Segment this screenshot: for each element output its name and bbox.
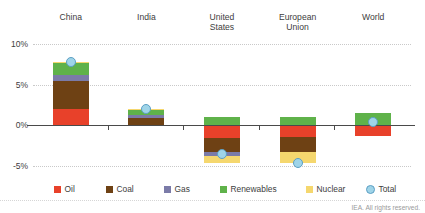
x-axis-category-label: UnitedStates xyxy=(210,12,235,32)
bar-segment-coal xyxy=(128,118,164,126)
x-axis-tick-mark xyxy=(183,125,184,130)
y-axis-tick-label: -5% xyxy=(13,161,28,171)
legend-item-gas[interactable]: Gas xyxy=(164,184,190,194)
x-axis-tick-mark xyxy=(259,125,260,130)
zero-axis-line xyxy=(27,125,415,126)
legend-swatch-nuclear-icon xyxy=(306,186,313,193)
legend-swatch-total-icon xyxy=(366,185,375,194)
bar-segment-renewables xyxy=(280,117,316,126)
category-group: China xyxy=(33,36,109,178)
legend-label: Gas xyxy=(175,184,190,194)
y-axis-tick-label: 10% xyxy=(11,39,28,49)
legend-swatch-oil-icon xyxy=(54,186,61,193)
bar-segment-gas xyxy=(128,115,164,118)
category-group: India xyxy=(109,36,185,178)
x-axis-category-label: World xyxy=(362,12,384,22)
legend-swatch-renewables-icon xyxy=(220,186,227,193)
bar-segment-oil xyxy=(53,109,89,125)
legend-label: Nuclear xyxy=(317,184,346,194)
legend-item-total[interactable]: Total xyxy=(366,184,396,194)
legend-item-oil[interactable]: Oil xyxy=(54,184,75,194)
category-group: UnitedStates xyxy=(184,36,260,178)
total-marker-dot xyxy=(293,158,303,168)
bar-segment-coal xyxy=(53,81,89,110)
bar-segment-oil xyxy=(204,125,240,138)
total-marker-dot xyxy=(66,57,76,67)
bar-segment-gas xyxy=(53,75,89,81)
category-group: World xyxy=(335,36,411,178)
category-group: EuropeanUnion xyxy=(260,36,336,178)
x-axis-category-label: India xyxy=(137,12,156,22)
plot-area: 10%5%0%-5%ChinaIndiaUnitedStatesEuropean… xyxy=(33,36,411,178)
footer-divider xyxy=(0,200,425,201)
legend-label: Coal xyxy=(117,184,134,194)
bar-segment-renewables xyxy=(204,117,240,126)
x-axis-category-label: EuropeanUnion xyxy=(279,12,316,32)
chart-legend: OilCoalGasRenewablesNuclearTotal xyxy=(54,183,384,195)
legend-label: Total xyxy=(379,184,397,194)
x-axis-category-label: China xyxy=(60,12,82,22)
copyright-credit: IEA. All rights reserved. xyxy=(351,204,420,211)
total-marker-dot xyxy=(141,104,151,114)
total-marker-dot xyxy=(368,117,378,127)
bar-segment-oil xyxy=(280,125,316,136)
bar-segment-coal xyxy=(280,137,316,153)
legend-label: Renewables xyxy=(231,184,277,194)
legend-item-renewables[interactable]: Renewables xyxy=(220,184,277,194)
x-axis-tick-mark xyxy=(334,125,335,130)
x-axis-tick-mark xyxy=(108,125,109,130)
total-marker-dot xyxy=(217,149,227,159)
chart-root: 10%5%0%-5%ChinaIndiaUnitedStatesEuropean… xyxy=(0,0,425,213)
legend-item-nuclear[interactable]: Nuclear xyxy=(306,184,345,194)
legend-item-coal[interactable]: Coal xyxy=(106,184,134,194)
legend-swatch-gas-icon xyxy=(164,186,171,193)
y-axis-tick-label: 5% xyxy=(16,80,28,90)
chart-title-cutoff xyxy=(0,0,425,3)
legend-swatch-coal-icon xyxy=(106,186,113,193)
legend-label: Oil xyxy=(65,184,75,194)
